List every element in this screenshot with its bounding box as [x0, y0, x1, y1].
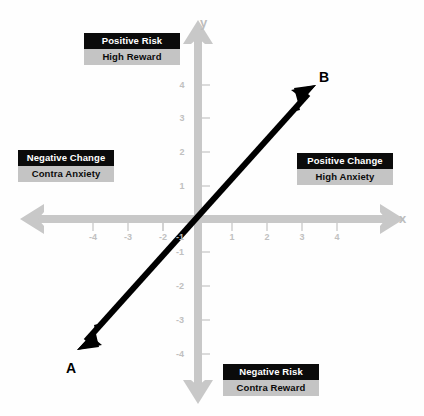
annotation-bottom-subtitle: Contra Reward — [223, 380, 319, 396]
y-tick-label-2: 2 — [174, 147, 190, 157]
chart-canvas — [0, 0, 424, 416]
annotation-right-title: Positive Change — [297, 153, 393, 169]
x-axis-ticks — [93, 223, 337, 231]
annotation-top-title: Positive Risk — [84, 33, 180, 49]
y-tick-label-neg2: -2 — [172, 281, 188, 291]
x-axis-label: x — [399, 212, 406, 225]
y-tick-label-neg1: -1 — [172, 247, 188, 257]
annotation-right-subtitle: High Anxiety — [297, 169, 393, 185]
y-tick-label-neg3: -3 — [172, 315, 188, 325]
x-tick-label-2: 2 — [259, 232, 275, 242]
point-label-b: B — [319, 70, 329, 84]
x-tick-label-neg2: -2 — [155, 232, 171, 242]
y-tick-label-3: 3 — [174, 113, 190, 123]
annotation-left-title: Negative Change — [18, 150, 114, 166]
annotation-right: Positive Change High Anxiety — [297, 153, 393, 185]
arrowhead-a-fill — [77, 323, 102, 350]
y-tick-label-4: 4 — [174, 80, 190, 90]
annotation-top: Positive Risk High Reward — [84, 33, 180, 65]
x-tick-label-3: 3 — [294, 232, 310, 242]
annotation-bottom-title: Negative Risk — [223, 364, 319, 380]
arrowhead-b-fill — [292, 85, 316, 112]
annotation-left-subtitle: Contra Anxiety — [18, 166, 114, 182]
point-label-a: A — [66, 361, 76, 375]
annotation-left: Negative Change Contra Anxiety — [18, 150, 114, 182]
y-tick-label-neg4: -4 — [172, 349, 188, 359]
y-tick-label-1: 1 — [174, 181, 190, 191]
x-axis-line — [30, 215, 394, 223]
y-axis-label: y — [200, 16, 207, 29]
x-tick-label-1: 1 — [224, 232, 240, 242]
x-tick-label-neg4: -4 — [85, 232, 101, 242]
annotation-top-subtitle: High Reward — [84, 49, 180, 65]
x-tick-label-4: 4 — [329, 232, 345, 242]
x-tick-label-neg1: -1 — [172, 232, 188, 242]
annotation-bottom: Negative Risk Contra Reward — [223, 364, 319, 396]
quadrant-chart: x y -4 -3 -2 -1 1 2 3 4 4 3 2 1 -1 -2 -3… — [0, 0, 424, 416]
x-tick-label-neg3: -3 — [120, 232, 136, 242]
